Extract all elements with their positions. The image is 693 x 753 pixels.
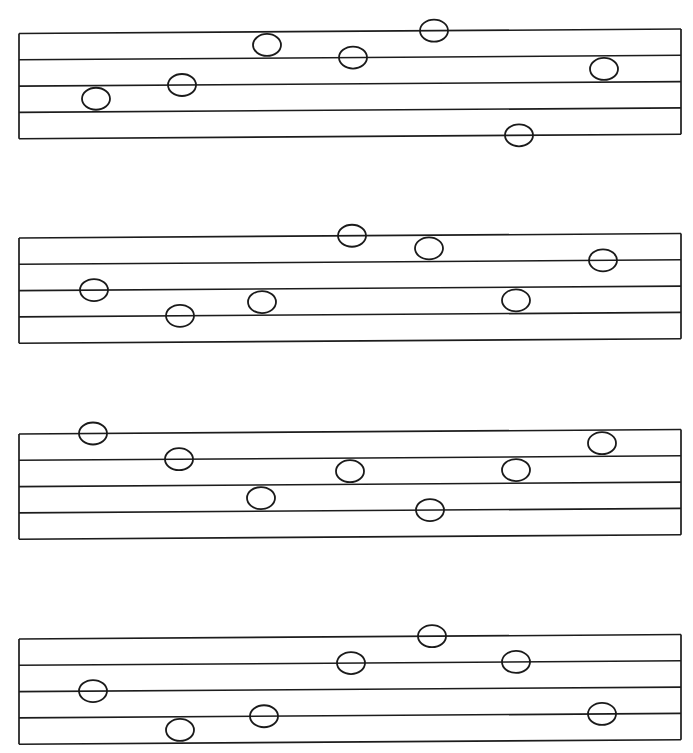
staff-4 [19,625,681,744]
staff-2-line-2 [19,260,681,265]
staff-1-line-5 [19,134,681,139]
staff-3-notehead-note-6[interactable] [502,459,530,481]
staff-1-notehead-note-7[interactable] [590,58,618,80]
staff-2-notehead-note-3[interactable] [248,291,276,313]
staff-3-line-4 [19,508,681,513]
staff-4-line-5 [19,740,681,745]
staff-2-line-1 [19,234,681,239]
staff-4-line-2 [19,661,681,666]
staff-2-line-3 [19,286,681,291]
staff-canvas [0,0,693,753]
staff-4-line-4 [19,713,681,718]
staff-3-line-5 [19,535,681,540]
staff-4-notehead-note-2[interactable] [166,719,194,741]
staff-2-line-4 [19,312,681,317]
staff-1-notehead-note-3[interactable] [253,34,281,56]
staff-1 [19,20,681,147]
worksheet-page: | [0,0,693,753]
staff-1-line-2 [19,55,681,60]
staff-1-line-4 [19,108,681,113]
staff-2 [19,225,681,343]
staff-3-notehead-note-7[interactable] [588,432,616,454]
staff-1-notehead-note-1[interactable] [82,88,110,110]
staff-3-notehead-note-4[interactable] [247,487,275,509]
staff-2-notehead-note-5[interactable] [415,237,443,259]
staff-2-notehead-note-6[interactable] [502,289,530,311]
staff-3 [19,422,681,539]
staff-1-line-1 [19,29,681,34]
staff-4-line-3 [19,687,681,692]
staff-2-line-5 [19,339,681,344]
staff-3-notehead-note-3[interactable] [336,460,364,482]
staff-1-line-3 [19,82,681,87]
staff-4-line-1 [19,635,681,640]
staff-3-line-1 [19,430,681,435]
